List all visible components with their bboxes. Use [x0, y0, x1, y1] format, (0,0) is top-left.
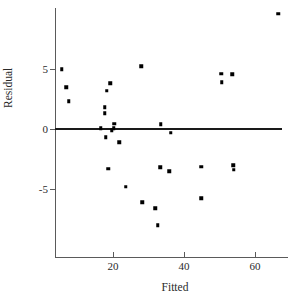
x-tick-label: 60 [250, 260, 261, 272]
data-point [200, 196, 204, 200]
data-point [158, 166, 162, 170]
x-tick-label: 20 [108, 260, 119, 272]
data-point [220, 72, 224, 76]
data-point [139, 64, 143, 68]
data-point [99, 127, 103, 131]
y-tick-mark [50, 189, 55, 190]
y-tick-label: 0 [43, 123, 49, 135]
data-point [113, 122, 117, 126]
y-tick-mark [50, 69, 55, 70]
data-point [140, 200, 144, 204]
data-point [231, 73, 235, 77]
data-point [276, 12, 280, 16]
data-point [103, 106, 107, 110]
data-point [156, 223, 160, 227]
data-point [104, 136, 108, 140]
data-point [60, 67, 64, 71]
data-point [106, 167, 110, 171]
x-axis-line [55, 257, 288, 258]
data-point [112, 127, 116, 131]
data-point [67, 100, 71, 104]
data-point [108, 82, 112, 86]
x-tick-mark [113, 252, 114, 257]
y-axis-line [55, 8, 56, 258]
x-tick-label: 40 [179, 260, 190, 272]
data-point [105, 89, 109, 93]
data-point [169, 131, 173, 135]
x-tick-mark [184, 252, 185, 257]
data-point [64, 85, 68, 89]
residual-plot: 204060 50-5 Fitted Residual [0, 0, 298, 304]
data-point [117, 140, 121, 144]
zero-reference-line [55, 128, 282, 130]
y-tick-label: 5 [43, 63, 49, 75]
data-point [159, 122, 163, 126]
data-point [220, 80, 224, 84]
data-point [167, 169, 171, 173]
x-axis-title-text: Fitted [162, 281, 189, 293]
data-point [103, 112, 107, 116]
x-axis-title: Fitted [0, 281, 298, 293]
data-point [232, 163, 236, 167]
data-point [200, 165, 204, 169]
data-point [124, 185, 128, 189]
data-point [232, 168, 236, 172]
x-tick-mark [255, 252, 256, 257]
data-point [153, 206, 157, 210]
y-axis-title: Residual [2, 68, 14, 108]
y-tick-label: -5 [39, 183, 48, 195]
